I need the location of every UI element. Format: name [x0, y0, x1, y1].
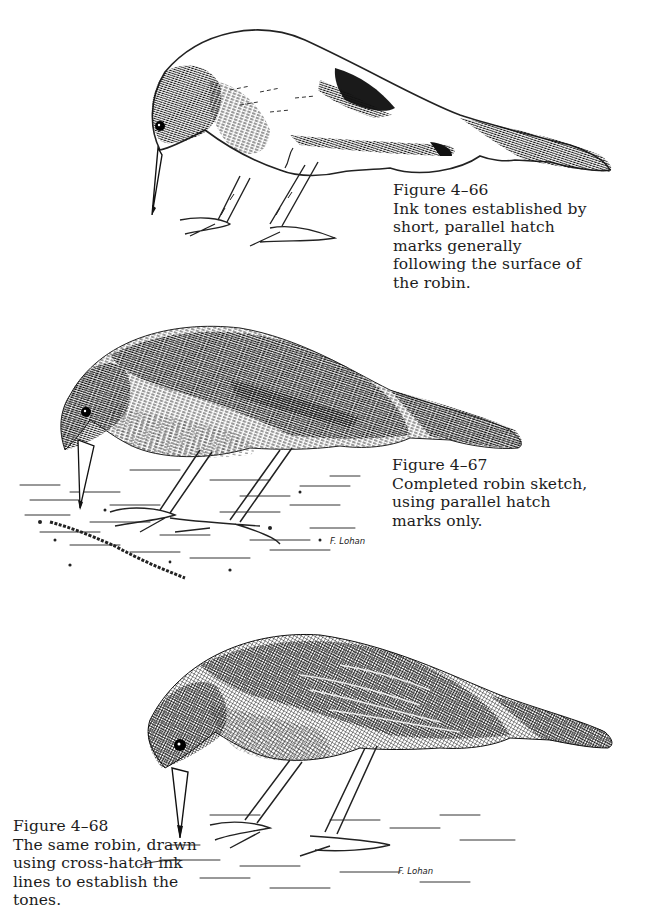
caption-line: tones. [13, 891, 213, 910]
figure-4-67-caption: Figure 4–67 Completed robin sketch, usin… [392, 456, 657, 530]
robin-parallel-hatch-drawing [10, 300, 550, 590]
figure-label: Figure 4–68 [13, 817, 213, 836]
caption-line: Completed robin sketch, [392, 475, 657, 494]
figure-4-67-illustration [10, 300, 550, 590]
figure-label: Figure 4–67 [392, 456, 657, 475]
caption-line: lines to establish the [13, 873, 213, 892]
figure-4-68-caption: Figure 4–68 The same robin, drawn using … [13, 817, 213, 910]
figure-label: Figure 4–66 [393, 181, 653, 200]
figure-4-68-illustration [140, 620, 650, 910]
caption-line: marks generally [393, 237, 653, 256]
caption-line: The same robin, drawn [13, 836, 213, 855]
caption-line: Ink tones established by [393, 200, 653, 219]
caption-line: marks only. [392, 512, 657, 531]
caption-line: short, parallel hatch [393, 218, 653, 237]
figure-4-68-signature: F. Lohan [398, 866, 433, 876]
caption-line: using cross-hatch ink [13, 854, 213, 873]
caption-line: the robin. [393, 274, 653, 293]
caption-line: using parallel hatch [392, 493, 657, 512]
figure-4-67-signature: F. Lohan [330, 536, 365, 546]
robin-cross-hatch-drawing [140, 620, 650, 910]
caption-line: following the surface of [393, 255, 653, 274]
figure-4-66-caption: Figure 4–66 Ink tones established by sho… [393, 181, 653, 293]
